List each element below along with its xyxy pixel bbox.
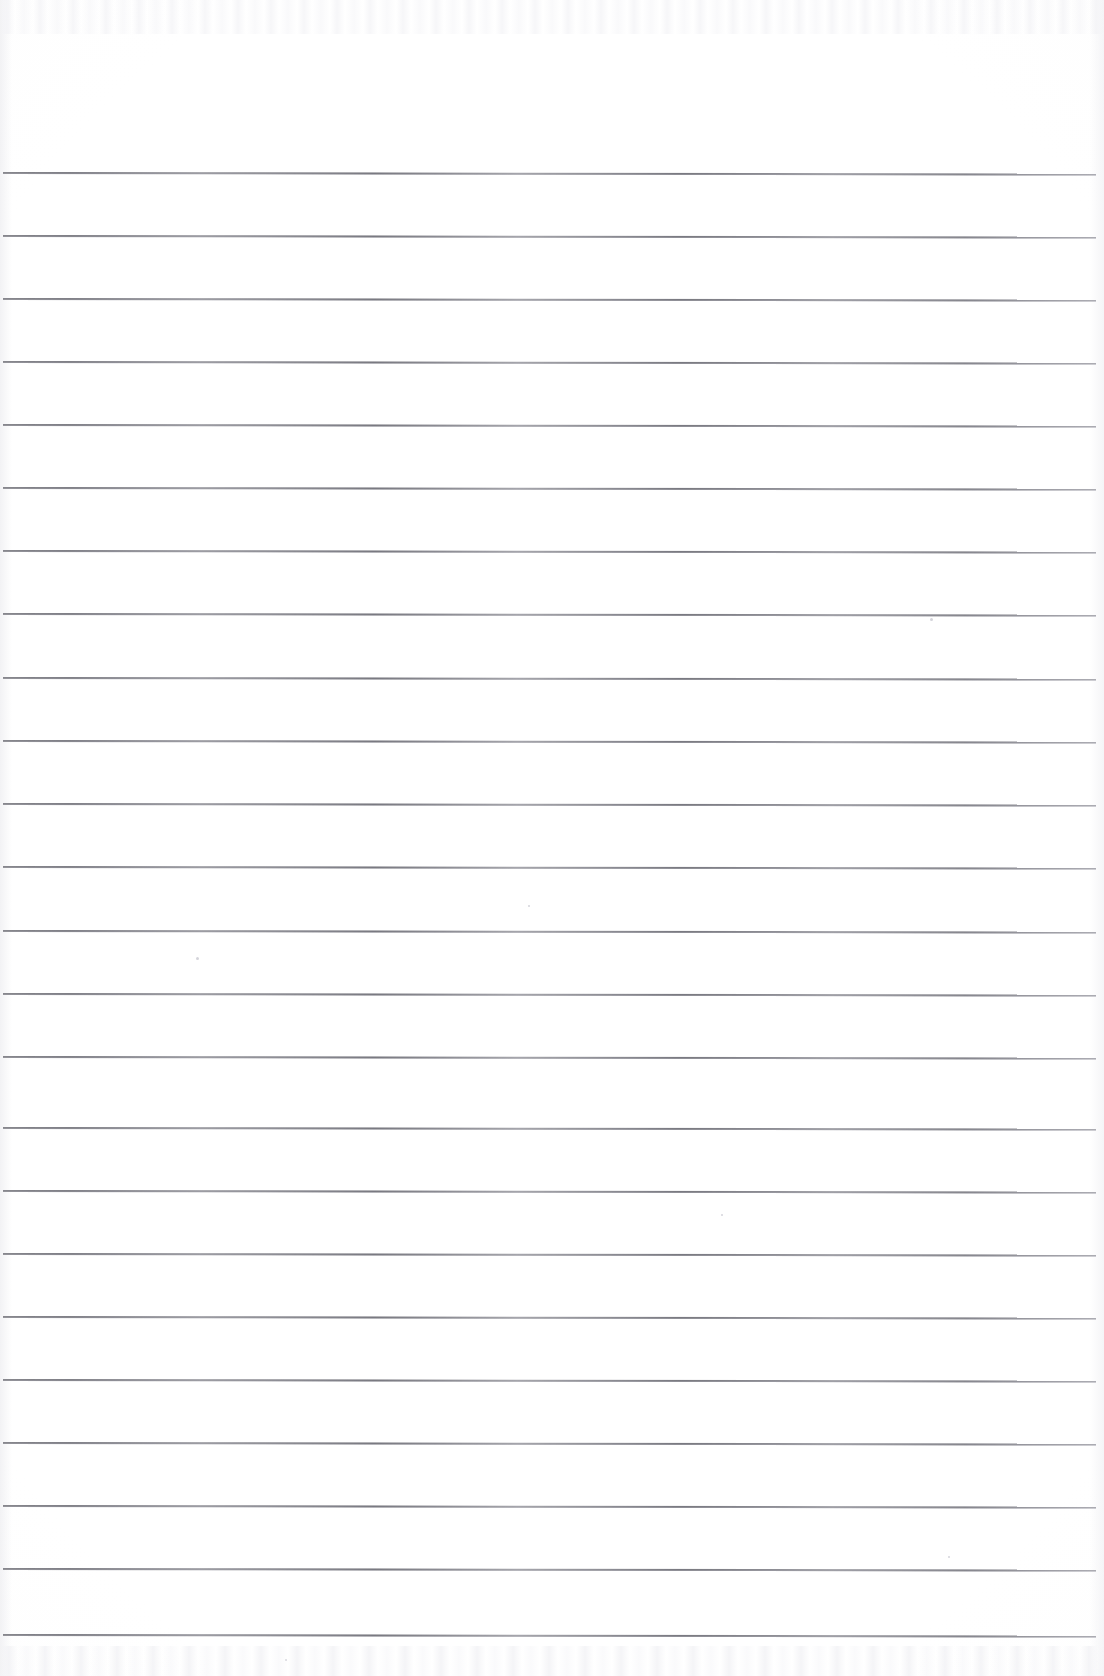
ruled-line <box>3 1190 1096 1193</box>
ruled-line <box>3 930 1096 933</box>
ruled-line <box>3 1505 1096 1508</box>
ruled-line <box>3 803 1096 806</box>
ruled-line <box>3 424 1096 427</box>
ruled-line <box>3 613 1096 616</box>
scan-speck <box>948 1556 950 1558</box>
ruled-line <box>3 1253 1096 1256</box>
ruled-line <box>3 235 1096 238</box>
ruled-line <box>3 172 1096 175</box>
ruled-line <box>3 1127 1096 1130</box>
page-edge-shadow-right <box>1090 0 1104 1676</box>
ruled-line <box>3 1568 1096 1571</box>
ruled-line <box>3 1316 1096 1319</box>
scan-speck <box>930 618 933 621</box>
scan-speck <box>196 957 199 960</box>
ruled-line <box>3 866 1096 869</box>
ruled-line <box>3 298 1096 301</box>
ruled-line <box>3 677 1096 680</box>
page-edge-shadow-left <box>0 0 12 1676</box>
scan-speck <box>285 1659 287 1661</box>
ruled-line <box>3 993 1096 996</box>
ruled-line <box>3 550 1096 553</box>
page-header-blank-area <box>0 0 1104 172</box>
ruled-line <box>3 1056 1096 1059</box>
ruled-line <box>3 1379 1096 1382</box>
ruled-line <box>3 361 1096 364</box>
scan-speck <box>721 1214 723 1216</box>
notebook-page <box>0 0 1104 1676</box>
ruled-line <box>3 1634 1096 1637</box>
ruled-line <box>3 740 1096 743</box>
scan-artifact-bottom-edge <box>0 1646 1104 1676</box>
ruled-line <box>3 1442 1096 1445</box>
ruled-line <box>3 487 1096 490</box>
paper-surface <box>0 0 1104 1676</box>
scan-speck <box>528 905 530 907</box>
